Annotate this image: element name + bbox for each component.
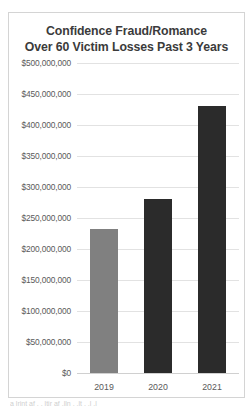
y-axis-tick-label: $350,000,000: [22, 151, 71, 161]
chart-title-line-2: Over 60 Victim Losses Past 3 Years: [9, 39, 244, 55]
x-axis-tick-label: 2019: [74, 382, 134, 392]
y-axis-tick-label: $0: [62, 368, 71, 378]
page-bleed-text: a lrint af . . ltir af .lln . .lt . .l .…: [10, 400, 250, 407]
x-axis-tick-label: 2020: [128, 382, 188, 392]
y-axis-tick-label: $200,000,000: [22, 244, 71, 254]
chart-title: Confidence Fraud/Romance Over 60 Victim …: [9, 23, 244, 55]
y-axis-tick-label: $250,000,000: [22, 213, 71, 223]
y-axis-tick-label: $300,000,000: [22, 182, 71, 192]
bar-series: [77, 63, 239, 373]
plot-area: $500,000,000$450,000,000$400,000,000$350…: [77, 63, 239, 373]
chart-title-line-1: Confidence Fraud/Romance: [9, 23, 244, 39]
chart-card: Confidence Fraud/Romance Over 60 Victim …: [8, 12, 245, 398]
bar-2021: [198, 106, 226, 373]
x-axis-tick-label: 2021: [182, 382, 242, 392]
y-axis-tick-label: $400,000,000: [22, 120, 71, 130]
y-axis-tick-label: $500,000,000: [22, 58, 71, 68]
bar-2020: [144, 199, 172, 373]
y-axis-tick-label: $50,000,000: [26, 337, 71, 347]
y-axis-tick-label: $450,000,000: [22, 89, 71, 99]
bar-2019: [90, 229, 118, 373]
gridline: [77, 373, 239, 374]
y-axis-tick-label: $150,000,000: [22, 275, 71, 285]
y-axis-tick-label: $100,000,000: [22, 306, 71, 316]
